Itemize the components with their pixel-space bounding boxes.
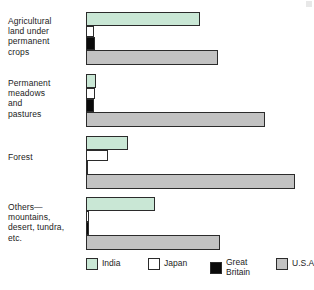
bar-japan xyxy=(86,26,94,37)
bar-usa xyxy=(86,235,220,250)
legend-item-india: India xyxy=(86,258,120,270)
corner-artifact xyxy=(306,1,312,7)
bar-britain xyxy=(86,37,95,50)
bar-britain xyxy=(86,161,88,174)
category-label: Forest xyxy=(8,152,80,162)
bar-india xyxy=(86,74,96,88)
bar-india xyxy=(86,197,155,211)
grouped-bar-chart: Agriculturalland underpermanentcropsPerm… xyxy=(0,0,314,290)
bar-usa xyxy=(86,112,265,127)
legend-item-japan: Japan xyxy=(148,258,187,270)
legend-label: GreatBritain xyxy=(226,258,250,277)
chart-legend: IndiaJapanGreatBritainU.S.A. xyxy=(86,258,314,284)
bar-usa xyxy=(86,174,295,189)
bar-japan xyxy=(86,211,89,222)
bar-britain xyxy=(86,99,94,112)
category-label: Permanentmeadowsandpastures xyxy=(8,78,80,119)
bar-india xyxy=(86,12,200,26)
category-label: Others—mountains,desert, tundra,etc. xyxy=(8,202,80,243)
legend-label: Japan xyxy=(164,259,187,269)
legend-item-britain: GreatBritain xyxy=(210,258,250,277)
legend-swatch-india xyxy=(86,258,98,270)
legend-label: U.S.A. xyxy=(292,259,314,269)
legend-swatch-usa xyxy=(276,258,288,270)
bar-japan xyxy=(86,150,108,161)
category-label: Agriculturalland underpermanentcrops xyxy=(8,16,80,57)
legend-swatch-japan xyxy=(148,258,160,270)
bar-britain xyxy=(86,222,89,235)
bar-japan xyxy=(86,88,95,99)
bar-usa xyxy=(86,50,218,65)
legend-item-usa: U.S.A. xyxy=(276,258,314,270)
legend-label: India xyxy=(102,259,120,269)
bar-india xyxy=(86,136,128,150)
legend-swatch-britain xyxy=(210,262,222,274)
